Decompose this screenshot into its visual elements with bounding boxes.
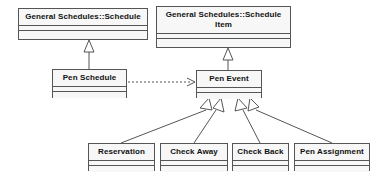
class-box-pen-event[interactable]: Pen Event (196, 70, 262, 98)
generalization-pen-schedule-to-schedule (84, 40, 94, 69)
class-box-check-back[interactable]: Check Back (232, 143, 289, 171)
class-name-pen-schedule: Pen Schedule (53, 70, 126, 87)
operations-compartment (157, 39, 290, 45)
class-name-pen-event: Pen Event (197, 71, 261, 88)
class-box-general-schedules-schedule[interactable]: General Schedules::Schedule (18, 8, 148, 40)
generalization-pen-event-to-schedule-item (223, 48, 233, 70)
class-box-reservation[interactable]: Reservation (88, 143, 155, 171)
operations-compartment (53, 92, 126, 98)
class-name-general-schedules-schedule-item: General Schedules::Schedule Item (157, 7, 290, 34)
generalization-pen-assignment-to-pen-event (248, 98, 332, 143)
class-name-general-schedules-schedule: General Schedules::Schedule (19, 9, 147, 26)
class-name-check-back: Check Back (233, 144, 288, 161)
class-name-reservation: Reservation (89, 144, 154, 161)
class-name-pen-assignment: Pen Assignment (295, 144, 369, 161)
class-box-check-away[interactable]: Check Away (160, 143, 228, 171)
operations-compartment (89, 166, 154, 172)
operations-compartment (233, 166, 288, 172)
class-box-pen-assignment[interactable]: Pen Assignment (294, 143, 370, 171)
operations-compartment (19, 31, 147, 37)
operations-compartment (197, 93, 261, 99)
class-box-pen-schedule[interactable]: Pen Schedule (52, 69, 127, 98)
uml-class-diagram: General Schedules::Schedule General Sche… (0, 0, 386, 180)
dependency-pen-schedule-to-pen-event (128, 78, 195, 86)
operations-compartment (295, 166, 369, 172)
class-name-check-away: Check Away (161, 144, 227, 161)
class-box-general-schedules-schedule-item[interactable]: General Schedules::Schedule Item (156, 6, 291, 48)
operations-compartment (161, 166, 227, 172)
